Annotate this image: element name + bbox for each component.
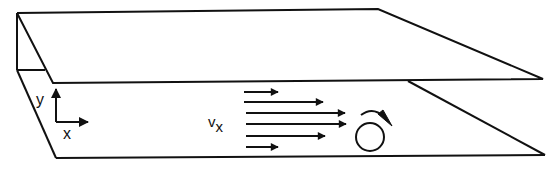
x-axis-label: x	[63, 126, 71, 142]
shear-flow-diagram: y x vx	[0, 0, 556, 169]
coordinate-axes	[56, 89, 88, 122]
velocity-profile	[244, 92, 346, 147]
y-axis-label: y	[36, 92, 44, 108]
velocity-symbol: v	[208, 113, 216, 130]
vortex-symbol	[356, 110, 392, 151]
velocity-label: vx	[208, 114, 223, 134]
rotation-circle-icon	[356, 123, 384, 151]
velocity-subscript: x	[216, 118, 224, 135]
diagram-canvas	[0, 0, 556, 169]
top-plate	[17, 9, 543, 83]
